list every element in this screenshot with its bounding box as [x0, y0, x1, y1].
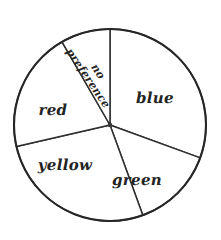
- pie-chart-figure: bluegreenyellowrednopreference: [0, 0, 221, 240]
- pie-center-point: [108, 123, 113, 128]
- pie-chart-svg: [0, 0, 221, 240]
- pie-label-green: green: [112, 171, 162, 189]
- pie-label-text: yellow: [38, 156, 92, 174]
- pie-label-yellow: yellow: [38, 156, 92, 174]
- pie-label-text: blue: [136, 89, 174, 107]
- pie-label-red: red: [39, 101, 68, 119]
- pie-label-text: red: [39, 101, 68, 119]
- pie-label-blue: blue: [136, 89, 174, 107]
- pie-label-text: green: [112, 171, 162, 189]
